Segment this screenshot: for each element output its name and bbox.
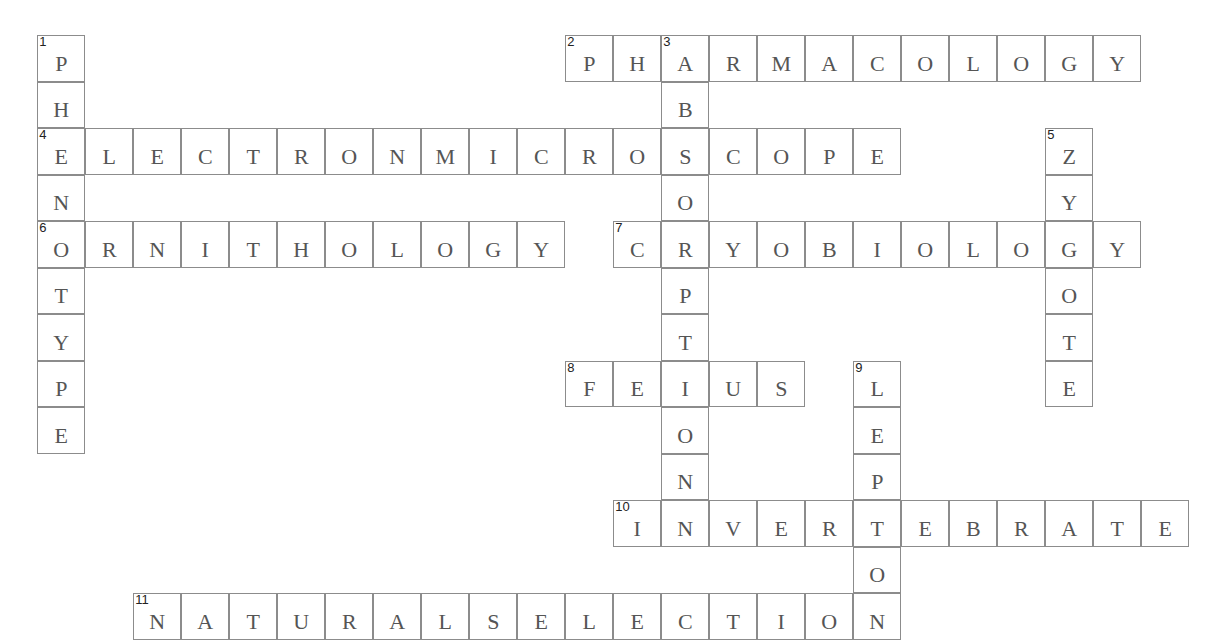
crossword-cell[interactable]: O (325, 221, 373, 268)
crossword-cell[interactable]: E (1045, 361, 1093, 408)
crossword-cell[interactable]: E (1141, 500, 1189, 547)
crossword-cell[interactable]: I (181, 221, 229, 268)
crossword-cell[interactable]: Y (1093, 35, 1141, 82)
crossword-cell[interactable]: B (661, 82, 709, 129)
crossword-cell[interactable]: T (661, 314, 709, 361)
crossword-cell[interactable]: L (949, 35, 997, 82)
crossword-cell[interactable]: O (661, 175, 709, 222)
crossword-cell[interactable]: O (613, 128, 661, 175)
crossword-cell[interactable]: Y (1093, 221, 1141, 268)
crossword-cell[interactable]: N (37, 175, 85, 222)
crossword-cell[interactable]: A (805, 35, 853, 82)
crossword-cell[interactable]: N (661, 454, 709, 501)
crossword-cell[interactable]: G (1045, 35, 1093, 82)
crossword-cell[interactable]: I (661, 361, 709, 408)
crossword-cell[interactable]: O (997, 221, 1045, 268)
crossword-cell[interactable]: H (613, 35, 661, 82)
crossword-cell[interactable]: E (517, 593, 565, 640)
crossword-cell[interactable]: R (709, 35, 757, 82)
crossword-cell[interactable]: P (805, 128, 853, 175)
crossword-cell[interactable]: O (325, 128, 373, 175)
crossword-cell[interactable]: N (373, 128, 421, 175)
crossword-cell[interactable]: O (421, 221, 469, 268)
crossword-cell[interactable]: H (277, 221, 325, 268)
crossword-cell[interactable]: L (373, 221, 421, 268)
crossword-cell[interactable]: E (37, 407, 85, 454)
crossword-cell[interactable]: L (565, 593, 613, 640)
crossword-cell[interactable]: N (661, 500, 709, 547)
crossword-cell[interactable]: O (901, 221, 949, 268)
crossword-cell[interactable]: T (1045, 314, 1093, 361)
crossword-cell[interactable]: 2P (565, 35, 613, 82)
crossword-cell[interactable]: O (997, 35, 1045, 82)
crossword-cell[interactable]: A (1045, 500, 1093, 547)
crossword-cell[interactable]: L (85, 128, 133, 175)
crossword-cell[interactable]: O (901, 35, 949, 82)
crossword-cell[interactable]: C (517, 128, 565, 175)
crossword-cell[interactable]: O (1045, 268, 1093, 315)
crossword-cell[interactable]: 6O (37, 221, 85, 268)
crossword-cell[interactable]: 10I (613, 500, 661, 547)
crossword-cell[interactable]: O (661, 407, 709, 454)
crossword-cell[interactable]: T (229, 221, 277, 268)
crossword-cell[interactable]: 1P (37, 35, 85, 82)
crossword-cell[interactable]: T (229, 128, 277, 175)
crossword-cell[interactable]: 7C (613, 221, 661, 268)
crossword-cell[interactable]: U (709, 361, 757, 408)
crossword-cell[interactable]: R (85, 221, 133, 268)
crossword-cell[interactable]: Y (709, 221, 757, 268)
crossword-cell[interactable]: 3A (661, 35, 709, 82)
crossword-cell[interactable]: B (949, 500, 997, 547)
crossword-cell[interactable]: E (853, 128, 901, 175)
crossword-cell[interactable]: R (325, 593, 373, 640)
crossword-cell[interactable]: T (37, 268, 85, 315)
crossword-cell[interactable]: E (613, 593, 661, 640)
crossword-cell[interactable]: T (229, 593, 277, 640)
crossword-cell[interactable]: N (853, 593, 901, 640)
crossword-cell[interactable]: O (757, 221, 805, 268)
crossword-cell[interactable]: T (1093, 500, 1141, 547)
crossword-cell[interactable]: I (757, 593, 805, 640)
crossword-cell[interactable]: A (181, 593, 229, 640)
crossword-cell[interactable]: O (757, 128, 805, 175)
crossword-cell[interactable]: G (469, 221, 517, 268)
crossword-cell[interactable]: R (805, 500, 853, 547)
crossword-cell[interactable]: B (805, 221, 853, 268)
crossword-cell[interactable]: E (757, 500, 805, 547)
crossword-cell[interactable]: R (997, 500, 1045, 547)
crossword-cell[interactable]: 11N (133, 593, 181, 640)
crossword-cell[interactable]: M (757, 35, 805, 82)
crossword-cell[interactable]: T (853, 500, 901, 547)
crossword-cell[interactable]: S (757, 361, 805, 408)
crossword-cell[interactable]: I (853, 221, 901, 268)
crossword-cell[interactable]: C (181, 128, 229, 175)
crossword-cell[interactable]: L (949, 221, 997, 268)
crossword-cell[interactable]: Y (517, 221, 565, 268)
crossword-cell[interactable]: T (709, 593, 757, 640)
crossword-cell[interactable]: L (421, 593, 469, 640)
crossword-cell[interactable]: O (853, 547, 901, 594)
crossword-cell[interactable]: R (277, 128, 325, 175)
crossword-cell[interactable]: E (901, 500, 949, 547)
crossword-cell[interactable]: R (565, 128, 613, 175)
crossword-cell[interactable]: I (469, 128, 517, 175)
crossword-cell[interactable]: 4E (37, 128, 85, 175)
crossword-cell[interactable]: 8F (565, 361, 613, 408)
crossword-cell[interactable]: G (1045, 221, 1093, 268)
crossword-cell[interactable]: C (853, 35, 901, 82)
crossword-cell[interactable]: 9L (853, 361, 901, 408)
crossword-cell[interactable]: P (37, 361, 85, 408)
crossword-cell[interactable]: R (661, 221, 709, 268)
crossword-cell[interactable]: P (661, 268, 709, 315)
crossword-cell[interactable]: U (277, 593, 325, 640)
crossword-cell[interactable]: C (661, 593, 709, 640)
crossword-cell[interactable]: Y (37, 314, 85, 361)
crossword-cell[interactable]: V (709, 500, 757, 547)
crossword-cell[interactable]: E (853, 407, 901, 454)
crossword-cell[interactable]: Y (1045, 175, 1093, 222)
crossword-cell[interactable]: N (133, 221, 181, 268)
crossword-cell[interactable]: O (805, 593, 853, 640)
crossword-cell[interactable]: A (373, 593, 421, 640)
crossword-cell[interactable]: E (613, 361, 661, 408)
crossword-cell[interactable]: E (133, 128, 181, 175)
